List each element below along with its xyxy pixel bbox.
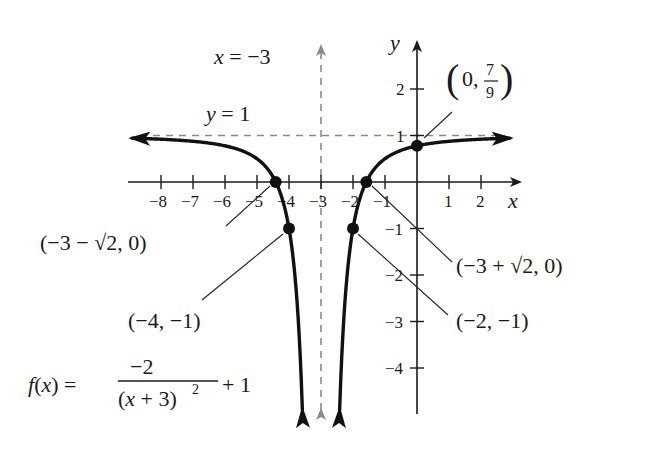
point-label-minus-two: (−2, −1) <box>456 308 528 333</box>
y-axis-label: y <box>388 30 400 55</box>
y-tick-label: −1 <box>385 220 403 239</box>
svg-text:(: ( <box>446 56 459 101</box>
svg-text:9: 9 <box>486 84 494 101</box>
y-tick-label: −4 <box>385 359 404 378</box>
point-label-y-intercept: ( 0, 7 9 ) <box>446 56 513 101</box>
x-axis: −8−7−6−5−4−3−2−112 x <box>128 175 520 213</box>
point-label-right-zero: (−3 + √2, 0) <box>456 253 563 278</box>
svg-text:−2: −2 <box>130 354 153 379</box>
graph-figure: −8−7−6−5−4−3−2−112 x 21−1−2−3−4 y x = −3… <box>0 0 652 463</box>
x-tick-label: 1 <box>444 192 453 211</box>
x-tick-label: −3 <box>309 192 327 211</box>
svg-text:0,: 0, <box>462 66 479 91</box>
svg-text:f(x) =: f(x) = <box>28 372 76 397</box>
x-axis-label: x <box>507 188 518 213</box>
svg-text:+ 1: + 1 <box>222 372 251 397</box>
horizontal-asymptote-label: y = 1 <box>204 101 250 126</box>
x-tick-label: −7 <box>181 192 200 211</box>
x-tick-label: −8 <box>149 192 167 211</box>
y-tick-label: 2 <box>396 80 405 99</box>
x-tick-label: −6 <box>213 192 231 211</box>
y-axis: 21−1−2−3−4 y <box>385 30 424 414</box>
svg-text:7: 7 <box>486 61 494 78</box>
y-tick-label: −3 <box>385 313 403 332</box>
x-tick-label: 2 <box>476 192 485 211</box>
y-tick-label: 1 <box>396 127 405 146</box>
function-equation: f(x) = −2 (x + 3) 2 + 1 <box>28 354 251 411</box>
vertical-asymptote-label: x = −3 <box>213 44 271 69</box>
svg-text:(x + 3): (x + 3) <box>118 386 177 411</box>
point-label-minus-four: (−4, −1) <box>128 308 200 333</box>
y-axis-ticks: 21−1−2−3−4 <box>385 80 424 378</box>
y-tick-label: −2 <box>385 266 403 285</box>
svg-text:): ) <box>500 56 513 101</box>
point-label-left-zero: (−3 − √2, 0) <box>40 230 147 255</box>
svg-text:2: 2 <box>192 382 199 397</box>
x-axis-ticks: −8−7−6−5−4−3−2−112 <box>149 175 485 211</box>
